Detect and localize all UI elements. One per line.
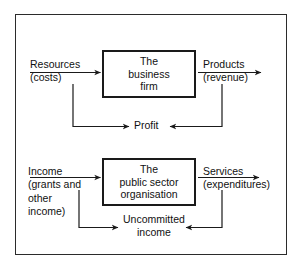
diagram-canvas: The business firm The public sector orga… [0, 0, 303, 268]
process-box-business-firm: The business firm [102, 50, 196, 98]
process-box-public-sector-organisation: The public sector organisation [102, 158, 196, 206]
label-income: Income (grants and other income) [28, 165, 81, 219]
box-label-line3: firm [128, 80, 169, 92]
box-label-line1: The [128, 55, 169, 67]
label-income-line3: other [28, 192, 81, 205]
label-income-line2: (grants and [28, 178, 81, 191]
box-label-line2: public sector [120, 176, 179, 188]
label-resources-line2: (costs) [30, 71, 80, 84]
label-services: Services (expenditures) [203, 165, 270, 192]
label-services-line1: Services [203, 165, 270, 178]
label-uncommitted-line2: income [123, 226, 185, 239]
label-income-line4: income) [28, 205, 81, 218]
label-uncommitted-income: Uncommitted income [123, 213, 185, 240]
label-profit: Profit [134, 119, 159, 132]
box-label-line2: business [128, 68, 169, 80]
label-resources-line1: Resources [30, 58, 80, 71]
label-uncommitted-line1: Uncommitted [123, 213, 185, 226]
label-resources: Resources (costs) [30, 58, 80, 85]
label-products-line2: (revenue) [203, 71, 248, 84]
box-label-line1: The [120, 163, 179, 175]
label-services-line2: (expenditures) [203, 178, 270, 191]
box-label-line3: organisation [120, 188, 179, 200]
label-products-line1: Products [203, 58, 248, 71]
label-products: Products (revenue) [203, 58, 248, 85]
label-income-line1: Income [28, 165, 81, 178]
